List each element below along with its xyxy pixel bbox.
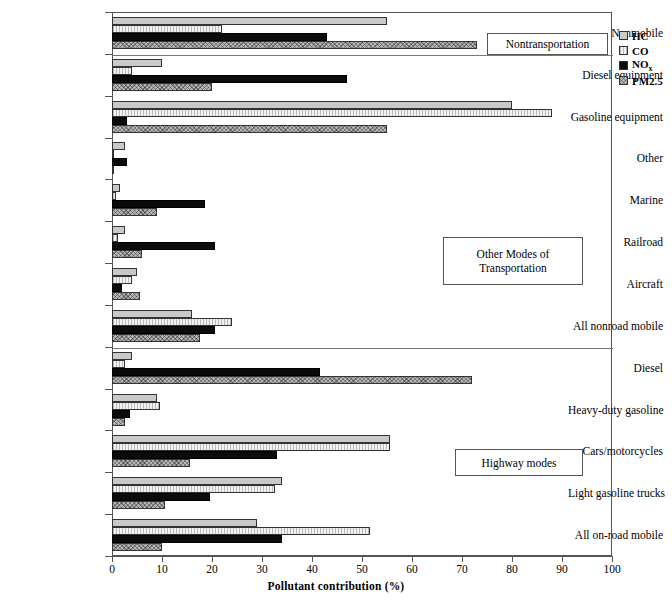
chart-figure: NonmobileDiesel equipmentGasoline equipm…: [0, 0, 672, 600]
y-axis-tick: [105, 263, 113, 264]
x-axis-title: Pollutant contribution (%): [0, 580, 672, 592]
legend-item-pm2.5: PM2.5: [619, 73, 671, 88]
bar-nox: [112, 117, 127, 125]
bar-hc: [112, 142, 125, 150]
bar-co: [112, 25, 222, 33]
bar-co: [112, 276, 132, 284]
x-axis-tick-label: 50: [356, 563, 368, 575]
y-axis-label: Cars/motorcycles: [568, 445, 672, 457]
x-axis-tick-label: 100: [603, 563, 620, 575]
bar-co: [112, 485, 275, 493]
x-axis-tick: [562, 556, 563, 562]
annotation-highway-modes: Highway modes: [455, 449, 583, 476]
y-axis-tick: [105, 221, 113, 222]
chart-legend: HCCONOxPM2.5: [619, 28, 671, 88]
x-axis-tick-label: 0: [109, 563, 115, 575]
bar-co: [112, 360, 125, 368]
y-axis-tick: [105, 389, 113, 390]
y-axis-tick: [105, 138, 113, 139]
bar-co: [112, 527, 370, 535]
y-axis-label: Heavy-duty gasoline: [568, 404, 672, 416]
annotation-other-modes: Other Modes of Transportation: [443, 237, 583, 285]
bar-nox: [112, 410, 130, 418]
y-axis-label: All on-road mobile: [568, 529, 672, 541]
y-axis-tick: [105, 12, 113, 13]
x-axis-tick-label: 90: [556, 563, 568, 575]
y-axis-label: All nonroad mobile: [568, 320, 672, 332]
bar-pm: [112, 208, 157, 216]
x-axis-tick: [312, 556, 313, 562]
bar-pm: [112, 501, 165, 509]
bar-co: [112, 67, 132, 75]
y-axis-tick: [105, 179, 113, 180]
x-axis-tick: [112, 556, 113, 562]
x-axis-tick-label: 60: [406, 563, 418, 575]
bar-nox: [112, 33, 327, 41]
bar-hc: [112, 226, 125, 234]
bar-hc: [112, 101, 512, 109]
bar-nox: [112, 535, 282, 543]
y-axis-label: Marine: [568, 194, 672, 206]
y-axis-label: Gasoline equipment: [568, 111, 672, 123]
y-axis-tick: [105, 96, 113, 97]
y-axis-tick: [105, 514, 113, 515]
legend-item-co: CO: [619, 43, 671, 58]
group-separator: [113, 348, 613, 349]
bar-pm: [112, 334, 200, 342]
x-axis-tick-label: 20: [206, 563, 218, 575]
x-axis-tick: [362, 556, 363, 562]
bar-hc: [112, 59, 162, 67]
annotation-other-modes-line1: Other Modes of: [477, 247, 550, 261]
x-axis-tick-label: 40: [306, 563, 318, 575]
legend-label: CO: [632, 45, 649, 57]
bar-hc: [112, 17, 387, 25]
bar-hc: [112, 184, 120, 192]
bar-hc: [112, 352, 132, 360]
annotation-other-modes-line2: Transportation: [479, 261, 546, 275]
y-axis-label: Light gasoline trucks: [568, 487, 672, 499]
legend-item-nox: NOx: [619, 58, 671, 73]
bar-co: [112, 318, 232, 326]
x-axis-tick-label: 30: [256, 563, 268, 575]
bar-nox: [112, 200, 205, 208]
bar-nox: [112, 158, 127, 166]
legend-label: PM2.5: [632, 75, 663, 87]
bar-nox: [112, 493, 210, 501]
x-axis-tick: [212, 556, 213, 562]
bar-nox: [112, 368, 320, 376]
legend-label: NOx: [632, 58, 653, 73]
x-axis-tick-label: 70: [456, 563, 468, 575]
bar-pm: [112, 376, 472, 384]
x-axis-tick-label: 80: [506, 563, 518, 575]
legend-swatch-pm-icon: [619, 76, 628, 85]
bar-nox: [112, 242, 215, 250]
legend-label-subscript: x: [649, 64, 653, 73]
bar-co: [112, 109, 552, 117]
bar-hc: [112, 310, 192, 318]
bar-pm: [112, 166, 114, 174]
bar-pm: [112, 418, 125, 426]
y-axis-tick: [105, 347, 113, 348]
y-axis-tick: [105, 305, 113, 306]
legend-swatch-hc-icon: [619, 31, 628, 40]
y-axis-tick: [105, 430, 113, 431]
bar-pm: [112, 83, 212, 91]
bar-pm: [112, 250, 142, 258]
annotation-nontransportation: Nontransportation: [487, 33, 608, 55]
x-axis-tick: [162, 556, 163, 562]
y-axis-tick: [105, 54, 113, 55]
bar-pm: [112, 292, 140, 300]
bar-nox: [112, 75, 347, 83]
bar-nox: [112, 326, 215, 334]
y-axis-label: Railroad: [568, 236, 672, 248]
legend-label: HC: [632, 30, 649, 42]
bar-nox: [112, 451, 277, 459]
bar-hc: [112, 519, 257, 527]
bar-co: [112, 443, 390, 451]
legend-swatch-co-icon: [619, 46, 628, 55]
bar-co: [112, 234, 118, 242]
x-axis-tick-label: 10: [156, 563, 168, 575]
bar-nox: [112, 284, 122, 292]
bar-pm: [112, 125, 387, 133]
bar-hc: [112, 268, 137, 276]
